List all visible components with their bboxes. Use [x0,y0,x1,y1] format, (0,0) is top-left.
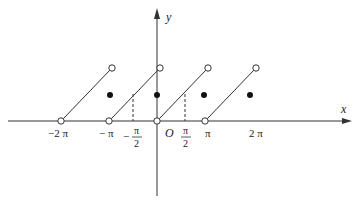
segment-1 [63,70,110,119]
segment-4 [207,70,254,119]
open-point [154,118,160,124]
y-axis-arrow-icon [154,8,160,19]
open-point [109,65,115,71]
open-point [202,118,208,124]
tick-label-2pi: 2 π [249,127,263,139]
segment-3 [159,70,206,119]
open-point [58,118,64,124]
filled-point [154,92,160,98]
open-point [205,65,211,71]
segment-2 [111,70,158,119]
filled-point [201,92,207,98]
y-axis-label: y [165,10,172,24]
x-axis-arrow-icon [342,118,352,124]
open-point [157,65,163,71]
tick-label-neg-half-pi-num: π [134,125,139,136]
filled-point [107,92,113,98]
tick-label-pi: π [205,127,211,139]
open-point [106,118,112,124]
tick-label-neg-pi: − π [99,127,114,139]
open-point [253,65,259,71]
diagram-canvas: y x O −2 π − π − π 2 π 2 π 2 π [0,0,359,201]
tick-label-half-pi-num: π [183,125,188,136]
tick-label-neg-2pi: −2 π [48,127,68,139]
origin-label: O [165,126,174,140]
tick-label-neg-half-pi-den: 2 [134,138,139,149]
tick-label-neg-half-pi-sign: − [123,130,129,142]
x-axis-label: x [340,102,347,116]
tick-label-half-pi-den: 2 [183,138,188,149]
filled-point [247,92,253,98]
